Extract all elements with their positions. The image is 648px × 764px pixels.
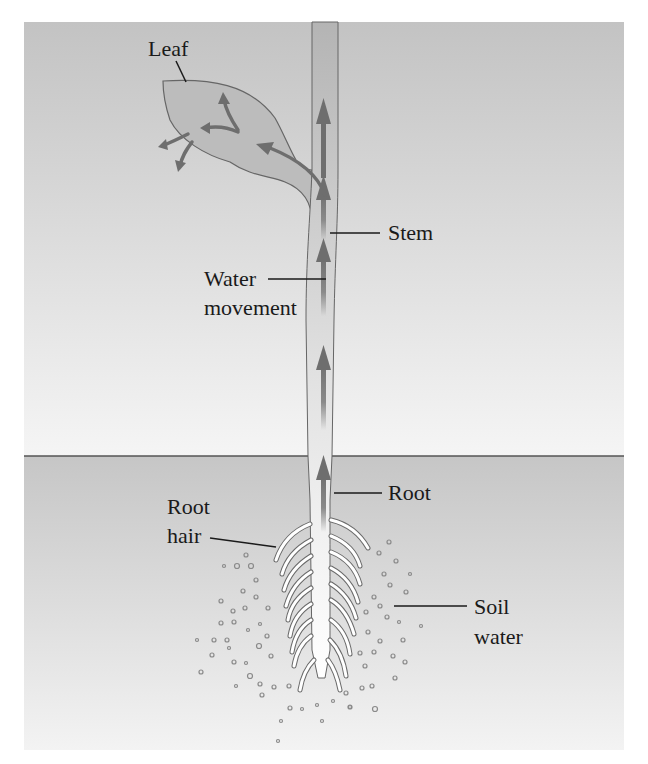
root-hair-label-line2: hair [167,523,201,549]
soil-water-label-line1: Soil [474,594,509,620]
root-label: Root [388,480,431,506]
plant-water-diagram: Leaf Stem Water movement Root Root hair … [0,0,648,764]
soil-water-label-line2: water [474,624,523,650]
stem-label: Stem [388,220,433,246]
water-movement-label-line1: Water [204,266,256,292]
diagram-canvas [0,0,648,764]
root-hair-label-line1: Root [167,494,210,520]
leaf-label: Leaf [148,36,188,62]
water-movement-label-line2: movement [204,295,297,321]
